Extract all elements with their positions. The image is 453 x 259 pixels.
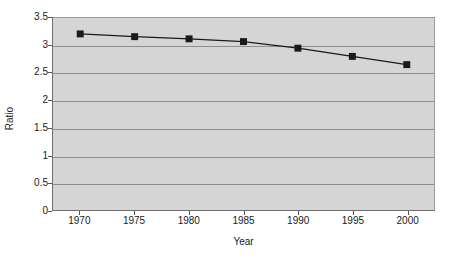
y-tick-label: 3: [18, 40, 48, 50]
data-series-layer: [53, 18, 434, 210]
data-point-marker: [403, 61, 410, 68]
data-point-marker: [294, 45, 301, 52]
x-tick-label: 1995: [333, 215, 373, 227]
data-point-marker: [77, 30, 84, 37]
y-tick-label: 3.5: [18, 12, 48, 22]
y-tick-label: 1: [18, 151, 48, 161]
line-chart-figure: Ratio 00.511.522.533.5 19701975198019851…: [0, 0, 453, 259]
data-point-marker: [349, 53, 356, 60]
y-tick-label: 0.5: [18, 178, 48, 188]
x-axis-title-label: Year: [233, 236, 253, 247]
y-tick-label: 2.5: [18, 67, 48, 77]
y-axis-tick-labels: 00.511.522.533.5: [18, 17, 48, 211]
y-axis-title-label: Ratio: [5, 106, 16, 129]
x-axis-title: Year: [52, 236, 435, 247]
x-tick-label: 1980: [169, 215, 209, 227]
y-axis-title: Ratio: [2, 88, 18, 148]
x-tick-label: 2000: [388, 215, 428, 227]
plot-area: [52, 17, 435, 211]
data-point-marker: [186, 35, 193, 42]
x-tick-label: 1990: [278, 215, 318, 227]
x-axis-tick-labels: 1970197519801985199019952000: [52, 215, 435, 229]
x-tick-label: 1985: [224, 215, 264, 227]
data-point-marker: [240, 38, 247, 45]
y-tick-label: 0: [18, 206, 48, 216]
data-point-marker: [131, 33, 138, 40]
x-tick-label: 1975: [114, 215, 154, 227]
y-tick-label: 1.5: [18, 123, 48, 133]
y-tick-label: 2: [18, 95, 48, 105]
x-tick-label: 1970: [59, 215, 99, 227]
